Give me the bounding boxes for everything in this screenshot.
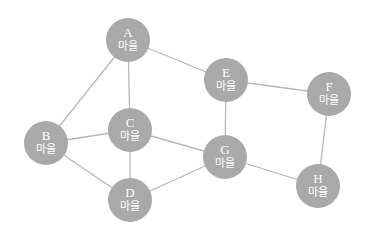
node-sublabel: 마을	[215, 157, 235, 171]
node-sublabel: 마을	[216, 80, 236, 94]
node-h: H마을	[296, 164, 340, 208]
node-label: F	[325, 80, 332, 94]
node-label: G	[220, 143, 229, 157]
node-sublabel: 마을	[118, 40, 138, 54]
node-a: A마을	[106, 18, 150, 62]
node-label: A	[123, 26, 132, 40]
node-sublabel: 마을	[120, 200, 140, 214]
node-c: C마을	[108, 108, 152, 152]
node-label: C	[126, 116, 135, 130]
village-graph: A마을 B마을 C마을 D마을 E마을 F마을 G마을 H마을	[0, 0, 377, 238]
node-label: B	[42, 129, 51, 143]
node-e: E마을	[204, 58, 248, 102]
node-f: F마을	[307, 72, 351, 116]
node-sublabel: 마을	[308, 186, 328, 200]
node-g: G마을	[203, 135, 247, 179]
node-sublabel: 마을	[319, 94, 339, 108]
node-sublabel: 마을	[36, 143, 56, 157]
node-label: H	[313, 172, 322, 186]
node-sublabel: 마을	[120, 130, 140, 144]
node-d: D마을	[108, 178, 152, 222]
node-label: D	[125, 186, 134, 200]
node-b: B마을	[24, 121, 68, 165]
node-label: E	[222, 66, 230, 80]
